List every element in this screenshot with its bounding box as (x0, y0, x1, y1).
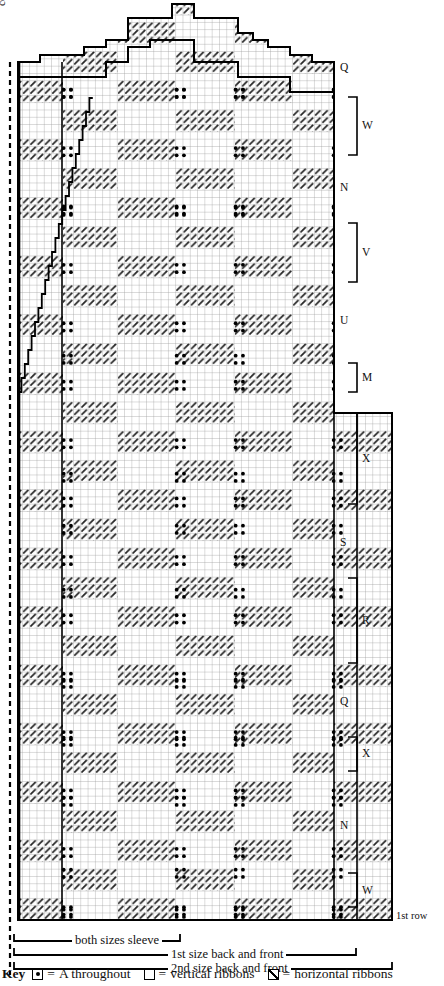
key-entry-a-throughout: = A throughout (32, 966, 130, 982)
chart-grid-svg (0, 0, 444, 986)
section-label-u-4: U (340, 315, 348, 327)
section-label-r-8: R (362, 615, 370, 627)
key-text-2: horizontal ribbons (294, 966, 393, 982)
span-caption-0: both sizes sleeve (72, 934, 162, 947)
span-caption-1: 1st size back and front (168, 948, 286, 961)
section-label-q-9: Q (340, 696, 348, 708)
key-text-1: vertical ribbons (170, 966, 254, 982)
first-row-label: 1st row (396, 911, 427, 922)
section-label-w-1: W (362, 120, 373, 132)
section-label-w-12: W (362, 885, 373, 897)
key-equals-0: = (47, 966, 55, 982)
section-label-n-11: N (340, 820, 348, 832)
section-label-n-2: N (340, 182, 348, 194)
section-label-x-10: X (362, 748, 370, 760)
key-label: Key (2, 966, 25, 982)
key-entry-vertical-ribbons: = vertical ribbons (144, 966, 255, 982)
section-label-m-5: M (362, 372, 372, 384)
bracket-r-8 (346, 577, 360, 664)
bracket-x-10 (346, 736, 360, 772)
section-label-q-0: Q (340, 62, 348, 74)
bracket-x-6 (346, 412, 360, 505)
section-label-s-7: S (340, 537, 346, 549)
square-with-diagonal-icon (268, 969, 279, 980)
section-label-x-6: X (362, 453, 370, 465)
bracket-m-5 (346, 362, 360, 393)
key-text-0: A throughout (59, 966, 131, 982)
knitting-chart-root: centre st QWNVUMXSRQXNW both sizes sleev… (0, 0, 444, 986)
chart-key: Key = A throughout = vertical ribbons = … (2, 964, 442, 984)
bracket-w-1 (346, 96, 360, 156)
key-equals-2: = (283, 966, 291, 982)
square-with-centre-dot-icon (32, 969, 43, 980)
key-entry-horizontal-ribbons: = horizontal ribbons (268, 966, 393, 982)
bracket-w-12 (346, 872, 360, 908)
bracket-v-3 (346, 222, 360, 283)
key-equals-1: = (159, 966, 167, 982)
empty-square-icon (144, 969, 155, 980)
section-label-v-3: V (362, 247, 370, 259)
